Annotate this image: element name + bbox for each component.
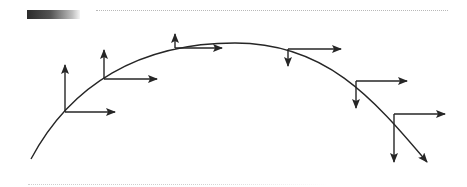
trajectory-curve [31,43,427,162]
velocity-point-4 [288,49,341,66]
velocity-point-6 [394,114,445,162]
velocity-vectors [65,34,445,162]
velocity-point-3 [175,34,222,48]
trajectory-diagram [0,0,467,187]
velocity-point-2 [104,50,157,79]
